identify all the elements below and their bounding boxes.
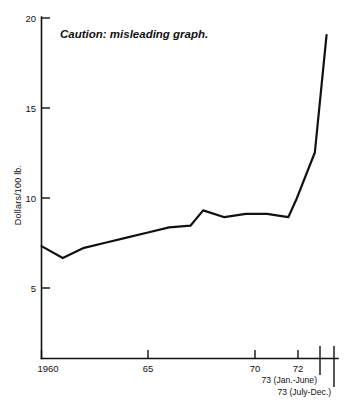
caution-annotation: Caution: misleading graph.: [60, 28, 208, 40]
x-tick-label-72: 72: [293, 363, 304, 374]
y-tick-label-5: 5: [31, 283, 36, 294]
y-tick-label-20: 20: [25, 13, 36, 24]
period-label-july-dec: 73 (July-Dec.): [278, 387, 332, 397]
x-tick-label-1960: 1960: [37, 363, 58, 374]
y-axis-title: Dollars/100 lb.: [13, 165, 23, 226]
x-tick-label-65: 65: [143, 363, 154, 374]
line-chart: 20 15 10 5 Dollars/100 lb. 1960 65 70 72…: [0, 0, 351, 406]
data-series-line: [42, 35, 327, 258]
y-tick-label-10: 10: [25, 193, 36, 204]
chart-figure: 20 15 10 5 Dollars/100 lb. 1960 65 70 72…: [0, 0, 351, 406]
y-tick-label-15: 15: [25, 103, 36, 114]
period-label-jan-june: 73 (Jan.-June): [262, 375, 318, 385]
x-tick-label-70: 70: [250, 363, 261, 374]
